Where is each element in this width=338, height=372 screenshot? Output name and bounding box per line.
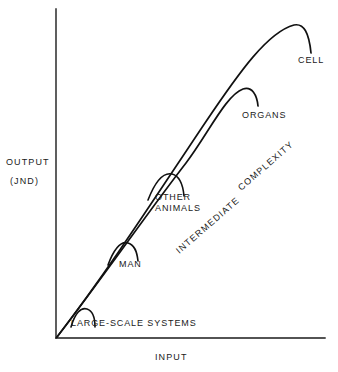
curve-label-other-animals-line1: OTHER xyxy=(155,192,201,203)
y-axis-units-label: (JND) xyxy=(10,176,39,187)
curve-cell xyxy=(57,25,311,337)
chart-canvas xyxy=(0,0,338,372)
figure-container: OUTPUT (JND) INPUT LARGE-SCALE SYSTEMS M… xyxy=(0,0,338,372)
curve-label-other-animals: OTHER ANIMALS xyxy=(155,192,201,214)
curve-label-cell: CELL xyxy=(298,55,324,66)
curve-label-large-scale-systems: LARGE-SCALE SYSTEMS xyxy=(71,318,197,329)
curve-label-man: MAN xyxy=(119,259,142,270)
curve-label-other-animals-line2: ANIMALS xyxy=(155,203,201,214)
x-axis-label: INPUT xyxy=(155,352,188,363)
y-axis-label: OUTPUT xyxy=(6,157,50,168)
curve-label-organs: ORGANS xyxy=(242,110,286,121)
